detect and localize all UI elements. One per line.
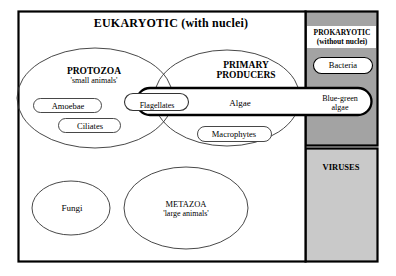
- macrophytes-label: Macrophytes: [200, 130, 268, 139]
- metazoa-label: METAZOA: [136, 200, 236, 209]
- primary-producers-label-line2: PRODUCERS: [196, 70, 296, 80]
- protozoa-sublabel: 'small animals': [42, 77, 146, 86]
- page-title: EUKARYOTIC (with nuclei): [38, 17, 304, 30]
- prokaryotic-label-line1: PROKARYOTIC: [309, 29, 375, 37]
- primary-producers-label-line1: PRIMARY: [196, 60, 296, 70]
- amoebae-label: Amoebae: [36, 102, 100, 111]
- bacteria-label: Bacteria: [317, 61, 369, 70]
- protozoa-label: PROTOZOA: [42, 66, 146, 76]
- figure-canvas: EUKARYOTIC (with nuclei) PROTOZOA 'small…: [0, 0, 396, 276]
- ciliates-label: Ciliates: [61, 122, 119, 131]
- metazoa-sublabel: 'large animals': [136, 210, 236, 219]
- prokaryotic-label-line2: (without nuclei): [307, 38, 377, 46]
- blue-green-algae-label-line2: algae: [312, 104, 368, 113]
- algae-label: Algae: [205, 99, 275, 109]
- viruses-label: VIRUSES: [312, 163, 370, 172]
- fungi-label: Fungi: [42, 204, 102, 214]
- flagellates-label: Flagellates: [127, 102, 187, 111]
